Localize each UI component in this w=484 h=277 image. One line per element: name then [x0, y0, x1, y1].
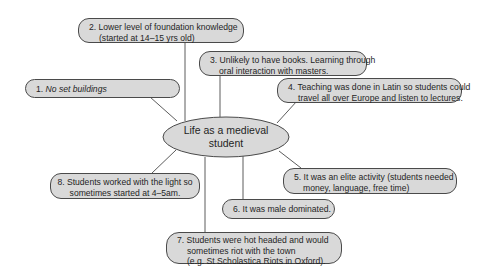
node-8-line-1: 8. Students worked with the light so: [57, 177, 193, 188]
node-1-text: No set buildings: [46, 84, 107, 94]
node-3-line-1: 3. Unlikely to have books. Learning thro…: [210, 55, 356, 66]
node-2-line-2: (started at 14–15 yrs old): [89, 33, 233, 44]
center-line-1: Life as a medieval: [163, 124, 289, 137]
node-1-no-set-buildings: 1. No set buildings: [25, 79, 180, 98]
node-5-line-2: money, language, free time): [294, 183, 446, 194]
connector-node-4: [277, 101, 297, 123]
node-8-line-2: sometimes started at 4–5am.: [57, 188, 193, 199]
node-4-latin-teaching: 4. Teaching was done in Latin so student…: [277, 78, 462, 103]
node-5-line-1: 5. It was an elite activity (students ne…: [294, 172, 446, 183]
node-1-number: 1.: [36, 84, 46, 94]
node-7-riots: 7. Students were hot headed and would so…: [166, 232, 342, 264]
node-3-line-2: oral interaction with masters.: [210, 66, 356, 77]
node-4-line-2: travel all over Europe and listen to lec…: [288, 93, 451, 104]
node-5-elite-activity: 5. It was an elite activity (students ne…: [283, 168, 457, 194]
node-1-line-1: 1. No set buildings: [36, 84, 169, 95]
node-2-foundation-knowledge: 2. Lower level of foundation knowledge (…: [78, 18, 244, 43]
center-topic: Life as a medieval student: [163, 124, 289, 150]
node-7-line-2: sometimes riot with the town: [177, 246, 331, 257]
node-2-line-1: 2. Lower level of foundation knowledge: [89, 22, 233, 33]
node-7-line-3: (e.g. St Scholastica Riots in Oxford).: [177, 256, 331, 267]
node-3-no-books: 3. Unlikely to have books. Learning thro…: [199, 51, 367, 76]
center-line-2: student: [163, 137, 289, 150]
node-6-line-1: 6. It was male dominated.: [233, 204, 324, 215]
connector-node-8: [152, 150, 176, 173]
node-6-male-dominated: 6. It was male dominated.: [222, 199, 335, 219]
node-4-line-1: 4. Teaching was done in Latin so student…: [288, 82, 451, 93]
connector-node-1: [150, 97, 177, 121]
node-7-line-1: 7. Students were hot headed and would: [177, 235, 331, 246]
connector-node-5: [279, 151, 301, 168]
node-8-worked-with-light: 8. Students worked with the light so som…: [50, 173, 200, 199]
mind-map-diagram: Life as a medieval student 2. Lower leve…: [0, 0, 484, 277]
